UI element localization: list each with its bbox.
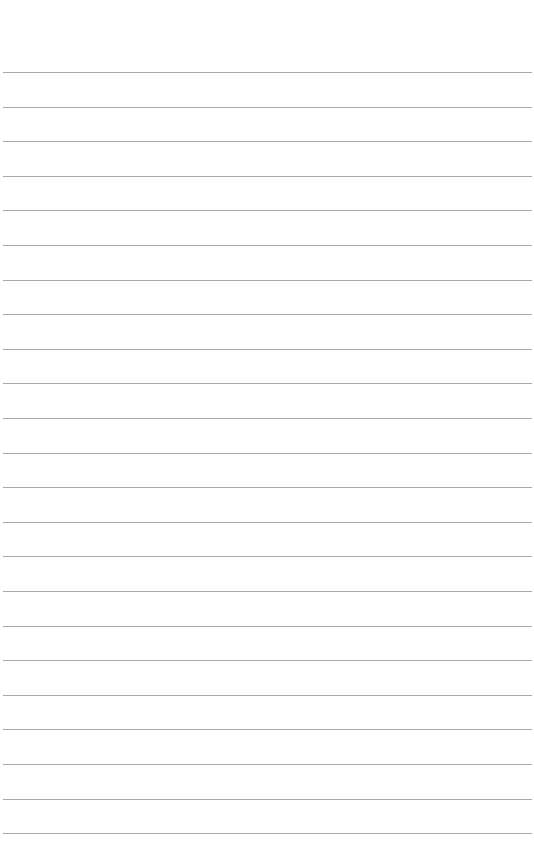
ruled-line	[3, 591, 532, 592]
ruled-line	[3, 210, 532, 211]
ruled-line	[3, 626, 532, 627]
ruled-line	[3, 141, 532, 142]
ruled-line	[3, 383, 532, 384]
ruled-line	[3, 72, 532, 73]
ruled-line	[3, 349, 532, 350]
ruled-line	[3, 729, 532, 730]
ruled-line	[3, 453, 532, 454]
ruled-line	[3, 487, 532, 488]
ruled-line	[3, 418, 532, 419]
ruled-line	[3, 660, 532, 661]
ruled-line	[3, 314, 532, 315]
ruled-line	[3, 833, 532, 834]
ruled-line	[3, 176, 532, 177]
ruled-line	[3, 280, 532, 281]
ruled-line	[3, 522, 532, 523]
ruled-line	[3, 245, 532, 246]
ruled-line	[3, 764, 532, 765]
lined-paper-page	[0, 0, 534, 867]
ruled-line	[3, 695, 532, 696]
ruled-line	[3, 799, 532, 800]
ruled-line	[3, 107, 532, 108]
ruled-line	[3, 556, 532, 557]
